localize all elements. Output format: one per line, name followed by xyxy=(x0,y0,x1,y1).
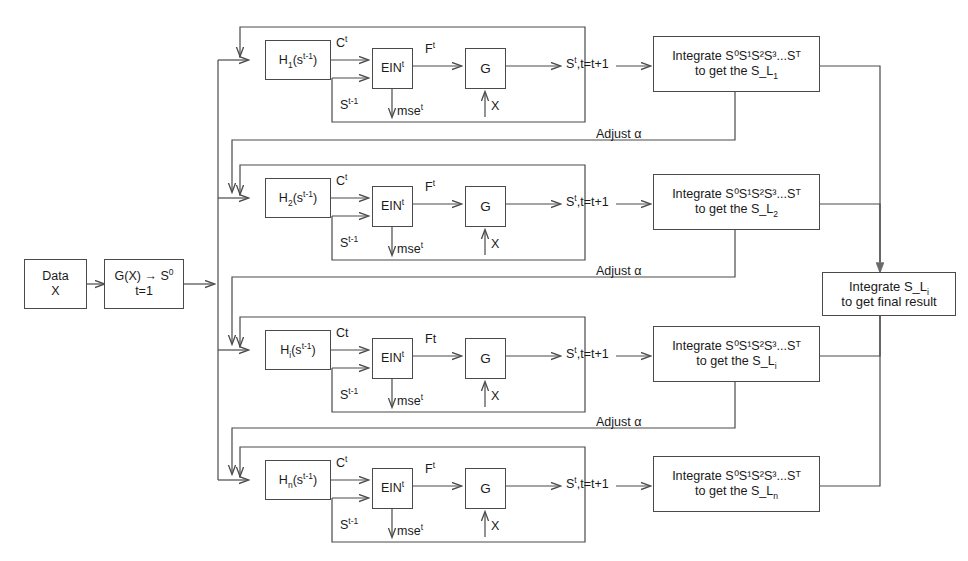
c-label-row-4: Ct xyxy=(336,456,347,470)
s-prev-label-row-1: St-1 xyxy=(340,98,358,112)
ein-block-row-1: EINt xyxy=(372,48,413,89)
ein-block-label: EINt xyxy=(381,61,404,76)
integrate-line1: Integrate S⁰S¹S²S³...Sᵀ xyxy=(672,469,801,484)
g-block-row-3: G xyxy=(465,338,506,379)
f-label-row-2: Ft xyxy=(425,180,435,194)
ein-block-label: EINt xyxy=(381,199,404,214)
final-line2: to get final result xyxy=(841,294,936,309)
integrate-line1: Integrate S⁰S¹S²S³...Sᵀ xyxy=(672,339,801,354)
c-label-row-1: Ct xyxy=(336,36,347,50)
h-block-label: Hn(st-1) xyxy=(279,473,317,488)
x-label-row-1: X xyxy=(491,99,499,113)
output-label-row-1: St,t=t+1 xyxy=(566,57,609,71)
g-block-label: G xyxy=(480,351,491,367)
h-block-row-3: Hi(st-1) xyxy=(265,330,331,370)
s-prev-label-row-3: St-1 xyxy=(340,388,358,402)
integrate-line2: to get the S_L1 xyxy=(695,64,778,79)
integrate-block-row-4: Integrate S⁰S¹S²S³...Sᵀ to get the S_Ln xyxy=(653,456,820,512)
x-label-row-4: X xyxy=(491,519,499,533)
init-line1: G(X) → S0 xyxy=(115,269,174,284)
data-input-block: Data X xyxy=(24,259,87,309)
integrate-line1: Integrate S⁰S¹S²S³...Sᵀ xyxy=(672,187,801,202)
output-label-row-3: St,t=t+1 xyxy=(566,347,609,361)
h-block-row-2: H2(st-1) xyxy=(265,178,331,218)
mse-label-row-4: mset xyxy=(397,524,423,538)
output-label-row-4: St,t=t+1 xyxy=(566,477,609,491)
final-line1: Integrate S_Li xyxy=(849,279,929,294)
integrate-block-row-1: Integrate S⁰S¹S²S³...Sᵀ to get the S_L1 xyxy=(653,36,820,92)
integrate-block-row-2: Integrate S⁰S¹S²S³...Sᵀ to get the S_L2 xyxy=(653,174,820,230)
data-input-line1: Data xyxy=(42,269,68,284)
ein-block-row-3: EINt xyxy=(372,338,413,379)
h-block-label: H1(st-1) xyxy=(279,53,317,68)
integrate-line2: to get the S_Li xyxy=(696,354,776,369)
mse-label-row-1: mset xyxy=(397,104,423,118)
h-block-label: H2(st-1) xyxy=(279,191,317,206)
x-label-row-2: X xyxy=(491,237,499,251)
h-block-label: Hi(st-1) xyxy=(280,343,315,358)
f-label-row-3: Ft xyxy=(425,332,436,346)
g-block-row-1: G xyxy=(465,48,506,89)
ein-block-label: EINt xyxy=(381,351,404,366)
adjust-alpha-label-1: Adjust α xyxy=(596,127,641,141)
integrate-line2: to get the S_L2 xyxy=(695,202,778,217)
adjust-alpha-label-3: Adjust α xyxy=(596,415,641,429)
c-label-row-2: Ct xyxy=(336,174,347,188)
f-label-row-4: Ft xyxy=(425,462,435,476)
ein-block-row-4: EINt xyxy=(372,468,413,509)
adjust-alpha-label-2: Adjust α xyxy=(596,264,641,278)
output-label-row-2: St,t=t+1 xyxy=(566,195,609,209)
s-prev-label-row-4: St-1 xyxy=(340,518,358,532)
init-block: G(X) → S0 t=1 xyxy=(104,259,184,309)
g-block-label: G xyxy=(480,481,491,497)
integrate-line1: Integrate S⁰S¹S²S³...Sᵀ xyxy=(672,49,801,64)
g-block-label: G xyxy=(480,61,491,77)
h-block-row-1: H1(st-1) xyxy=(265,40,331,80)
s-prev-label-row-2: St-1 xyxy=(340,236,358,250)
final-integrate-block: Integrate S_Li to get final result xyxy=(822,272,956,316)
h-block-row-4: Hn(st-1) xyxy=(265,460,331,500)
f-label-row-1: Ft xyxy=(425,42,435,56)
mse-label-row-3: mset xyxy=(397,394,423,408)
c-label-row-3: Ct xyxy=(336,326,349,340)
mse-label-row-2: mset xyxy=(397,242,423,256)
ein-block-label: EINt xyxy=(381,481,404,496)
integrate-block-row-3: Integrate S⁰S¹S²S³...Sᵀ to get the S_Li xyxy=(653,326,820,382)
data-input-line2: X xyxy=(51,284,59,299)
g-block-row-2: G xyxy=(465,186,506,227)
diagram-canvas: Data X G(X) → S0 t=1 H1(st-1) Ct EINt Ft… xyxy=(0,0,968,561)
g-block-label: G xyxy=(480,199,491,215)
ein-block-row-2: EINt xyxy=(372,186,413,227)
integrate-line2: to get the S_Ln xyxy=(695,484,778,499)
x-label-row-3: X xyxy=(491,389,499,403)
g-block-row-4: G xyxy=(465,468,506,509)
init-line2: t=1 xyxy=(135,284,153,299)
